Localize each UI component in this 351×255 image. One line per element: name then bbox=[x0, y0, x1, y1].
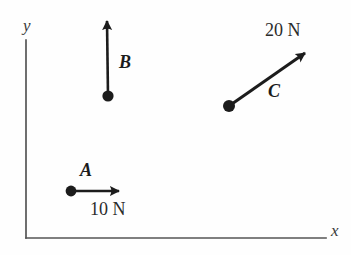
vector-c-label: C bbox=[268, 82, 280, 100]
vector-c-magnitude-label: 20 N bbox=[265, 21, 301, 39]
vector-a-label: A bbox=[80, 161, 92, 179]
vector-b-label: B bbox=[119, 53, 131, 71]
y-axis-label: y bbox=[23, 17, 31, 34]
vector-c-origin-dot bbox=[223, 100, 235, 112]
x-axis-label: x bbox=[331, 222, 339, 239]
vector-b-origin-dot bbox=[102, 90, 113, 101]
vector-a-magnitude-label: 10 N bbox=[90, 200, 126, 218]
vector-a-group bbox=[66, 186, 119, 197]
vector-b-group bbox=[102, 21, 113, 102]
force-vector-diagram: y x A B C 10 N 20 N bbox=[0, 0, 351, 255]
vector-c-group bbox=[223, 53, 305, 112]
vector-b-shaft bbox=[107, 21, 108, 96]
vector-c-shaft bbox=[229, 53, 305, 106]
vector-a-origin-dot bbox=[66, 186, 77, 197]
